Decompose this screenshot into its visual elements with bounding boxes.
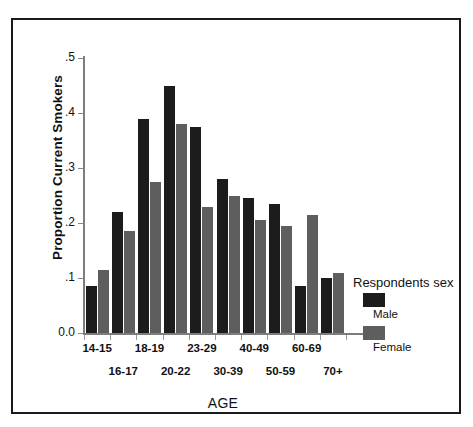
- y-axis-tick-label: 0.0: [33, 326, 75, 338]
- bar-20-22-female: [176, 124, 187, 333]
- x-axis-label-14-15: 14-15: [75, 342, 119, 354]
- x-axis-tick-mark: [320, 335, 321, 340]
- male-swatch: [363, 293, 385, 307]
- x-axis-tick-mark: [84, 335, 85, 340]
- x-axis-label-60-69: 60-69: [285, 342, 329, 354]
- bar-18-19-male: [138, 119, 149, 334]
- x-axis-label-50-59: 50-59: [259, 365, 303, 377]
- x-axis-tick-mark: [346, 335, 347, 340]
- bar-60-69-female: [307, 215, 318, 333]
- bar-70plus-female: [333, 273, 344, 334]
- bar-40-49-female: [255, 220, 266, 333]
- x-axis-title: AGE: [153, 395, 293, 411]
- x-axis-tick-mark: [241, 335, 242, 340]
- x-axis-label-40-49: 40-49: [232, 342, 276, 354]
- legend-entry-female: Female: [353, 326, 473, 353]
- figure-frame: Proportion Current Smokers 0.0.1.2.3.4.5…: [11, 18, 461, 414]
- y-axis-tick-label: .3: [33, 161, 75, 173]
- x-axis-label-16-17: 16-17: [101, 365, 145, 377]
- bar-23-29-male: [190, 127, 201, 333]
- x-axis-tick-mark: [267, 335, 268, 340]
- x-axis-line: [83, 333, 368, 335]
- x-axis-tick-mark: [215, 335, 216, 340]
- plot-area: [84, 58, 346, 333]
- y-axis-tick-label: .4: [33, 106, 75, 118]
- bar-20-22-male: [164, 86, 175, 334]
- x-axis-label-20-22: 20-22: [154, 365, 198, 377]
- bar-70plus-male: [321, 278, 332, 333]
- bar-50-59-male: [269, 204, 280, 333]
- bar-14-15-male: [86, 286, 97, 333]
- bar-18-19-female: [150, 182, 161, 333]
- bar-60-69-male: [295, 286, 306, 333]
- x-axis-tick-mark: [294, 335, 295, 340]
- x-axis-label-18-19: 18-19: [128, 342, 172, 354]
- bar-40-49-male: [243, 198, 254, 333]
- y-axis-tick-label: .2: [33, 216, 75, 228]
- legend: Respondents sex MaleFemale: [353, 275, 473, 359]
- chart-page: Proportion Current Smokers 0.0.1.2.3.4.5…: [0, 0, 473, 427]
- female-swatch: [363, 326, 385, 340]
- x-axis-tick-mark: [136, 335, 137, 340]
- bar-23-29-female: [202, 207, 213, 334]
- bar-50-59-female: [281, 226, 292, 333]
- legend-entries: MaleFemale: [353, 293, 473, 353]
- legend-label: Male: [373, 308, 473, 320]
- legend-entry-male: Male: [353, 293, 473, 320]
- x-axis-label-70plus: 70+: [311, 365, 355, 377]
- bar-14-15-female: [98, 270, 109, 333]
- x-axis-label-30-39: 30-39: [206, 365, 250, 377]
- bar-16-17-female: [124, 231, 135, 333]
- x-axis-label-23-29: 23-29: [180, 342, 224, 354]
- y-axis-tick-label: .5: [33, 51, 75, 63]
- legend-title: Respondents sex: [353, 275, 473, 290]
- bar-30-39-female: [229, 196, 240, 334]
- x-axis-tick-mark: [110, 335, 111, 340]
- x-axis-tick-mark: [163, 335, 164, 340]
- legend-label: Female: [373, 341, 473, 353]
- y-axis-tick-label: .1: [33, 271, 75, 283]
- bar-30-39-male: [217, 179, 228, 333]
- x-axis-tick-mark: [189, 335, 190, 340]
- bar-16-17-male: [112, 212, 123, 333]
